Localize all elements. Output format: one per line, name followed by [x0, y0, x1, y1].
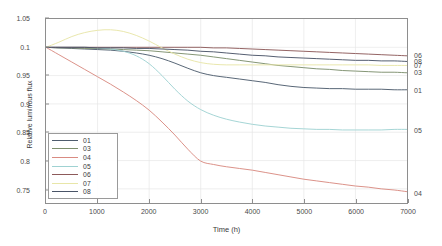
legend-label: 07 [83, 180, 91, 187]
legend: 01030405060708 [48, 133, 118, 199]
x-tick-mark [304, 199, 305, 203]
legend-label: 08 [83, 188, 91, 195]
legend-swatch [52, 166, 78, 167]
x-tick-mark [356, 199, 357, 203]
x-tick-label: 1000 [89, 208, 105, 215]
x-axis-title: Time (h) [45, 226, 408, 234]
x-tick-label: 0 [43, 208, 47, 215]
x-tick-mark [45, 199, 46, 203]
end-label-03: 03 [414, 69, 422, 76]
x-tick-mark [97, 199, 98, 203]
x-tick-label: 2000 [141, 208, 157, 215]
figure-canvas: 1.050.10.950.90.850.80.75 01000200030004… [0, 0, 442, 246]
legend-swatch [52, 183, 78, 184]
y-tick-mark [45, 103, 49, 104]
legend-item-08[interactable]: 08 [52, 188, 114, 197]
legend-label: 06 [83, 171, 91, 178]
y-tick-mark [45, 46, 49, 47]
legend-item-05[interactable]: 05 [52, 162, 114, 171]
legend-swatch [52, 174, 78, 175]
legend-swatch [52, 157, 78, 158]
x-tick-mark [408, 199, 409, 203]
end-label-01: 01 [414, 86, 422, 93]
legend-swatch [52, 191, 78, 192]
legend-swatch [52, 148, 78, 149]
legend-label: 04 [83, 154, 91, 161]
x-tick-label: 5000 [296, 208, 312, 215]
x-tick-mark [201, 199, 202, 203]
end-label-05: 05 [414, 126, 422, 133]
y-tick-label: 1.05 [16, 15, 30, 22]
y-tick-mark [45, 75, 49, 76]
y-tick-label: 0.75 [16, 186, 30, 193]
legend-label: 03 [83, 145, 91, 152]
y-tick-mark [45, 18, 49, 19]
x-tick-label: 4000 [245, 208, 261, 215]
legend-label: 05 [83, 163, 91, 170]
end-label-04: 04 [414, 189, 422, 196]
legend-item-07[interactable]: 07 [52, 179, 114, 188]
x-tick-label: 3000 [193, 208, 209, 215]
y-axis-title: Relative luminous flux [26, 45, 33, 185]
x-tick-mark [149, 199, 150, 203]
legend-item-03[interactable]: 03 [52, 145, 114, 154]
x-tick-mark [252, 199, 253, 203]
legend-swatch [52, 140, 78, 141]
x-tick-label: 7000 [400, 208, 416, 215]
end-label-07: 07 [414, 61, 422, 68]
legend-label: 01 [83, 137, 91, 144]
legend-item-04[interactable]: 04 [52, 153, 114, 162]
x-tick-label: 6000 [348, 208, 364, 215]
legend-item-06[interactable]: 06 [52, 170, 114, 179]
legend-item-01[interactable]: 01 [52, 136, 114, 145]
